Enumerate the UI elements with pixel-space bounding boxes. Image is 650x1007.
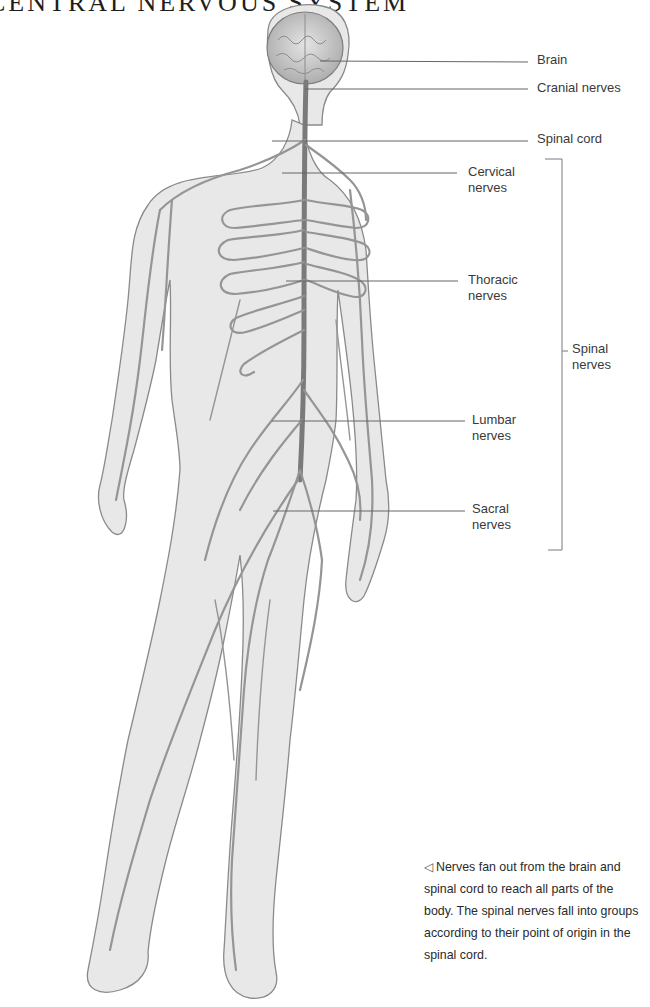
- label-cervical-nerves: Cervical nerves: [468, 164, 515, 196]
- label-cranial-nerves: Cranial nerves: [537, 80, 621, 96]
- leader-line-brain: [320, 61, 528, 62]
- figure-caption: ◁Nerves fan out from the brain and spina…: [424, 856, 644, 966]
- label-sacral-nerves: Sacral nerves: [472, 501, 511, 533]
- caption-text: Nerves fan out from the brain and spinal…: [424, 860, 638, 962]
- body-silhouette: [87, 5, 388, 998]
- brain-illustration: [267, 12, 343, 84]
- label-brain: Brain: [537, 52, 567, 68]
- spinal-nerves-bracket: [545, 159, 568, 550]
- left-triangle-pointer-icon: ◁: [424, 860, 433, 874]
- label-lumbar-nerves: Lumbar nerves: [472, 412, 516, 444]
- label-thoracic-nerves: Thoracic nerves: [468, 272, 518, 304]
- label-spinal-nerves: Spinal nerves: [572, 341, 611, 373]
- label-spinal-cord: Spinal cord: [537, 131, 602, 147]
